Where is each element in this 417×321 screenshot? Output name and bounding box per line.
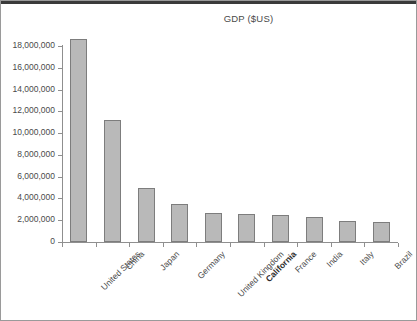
bar (205, 213, 222, 242)
y-axis-tick-mark (58, 46, 62, 47)
bar (306, 217, 323, 242)
bar (104, 120, 121, 242)
y-axis-tick-label: 14,000,000 (12, 84, 55, 94)
bar (171, 204, 188, 242)
bar (272, 215, 289, 242)
y-axis-line (62, 45, 63, 243)
top-divider-rule (1, 1, 417, 4)
x-axis-tick-mark (129, 243, 130, 247)
y-axis-tick-label: 8,000,000 (17, 149, 55, 159)
y-axis-tick-label: 10,000,000 (12, 127, 55, 137)
x-axis-tick-mark (331, 243, 332, 247)
y-axis-tick-label: 4,000,000 (17, 192, 55, 202)
y-axis-tick-label: 18,000,000 (12, 40, 55, 50)
x-axis-tick-mark (62, 243, 63, 247)
x-axis-tick-mark (163, 243, 164, 247)
x-axis-label: Germany (195, 249, 227, 281)
y-axis-tick-label: 12,000,000 (12, 105, 55, 115)
y-axis-tick-mark (58, 155, 62, 156)
bar (70, 39, 87, 242)
x-axis-label: India (324, 249, 344, 269)
plot-area: 18,000,00016,000,00014,000,00012,000,000… (62, 21, 398, 243)
x-axis-tick-mark (196, 243, 197, 247)
x-axis-label: Japan (158, 249, 181, 272)
y-axis-tick-mark (58, 90, 62, 91)
x-axis-tick-mark (364, 243, 365, 247)
x-axis-tick-mark (398, 243, 399, 247)
bar (238, 214, 255, 242)
y-axis-tick-label: 6,000,000 (17, 171, 55, 181)
bar (138, 188, 155, 242)
y-axis-tick-mark (58, 177, 62, 178)
y-axis-tick-label: 0 (50, 236, 55, 246)
bar (339, 221, 356, 242)
y-axis-tick-mark (58, 68, 62, 69)
y-axis-tick-label: 16,000,000 (12, 62, 55, 72)
x-axis-label: Brazil (392, 249, 414, 271)
x-axis-label: France (293, 249, 319, 275)
x-axis-tick-mark (230, 243, 231, 247)
x-axis-label: China (124, 249, 147, 272)
x-axis-label: Italy (357, 249, 375, 267)
y-axis-tick-mark (58, 220, 62, 221)
x-axis-tick-mark (96, 243, 97, 247)
y-axis-tick-mark (58, 111, 62, 112)
y-axis-tick-mark (58, 198, 62, 199)
y-axis-tick-mark (58, 133, 62, 134)
chart-page: GDP ($US) 18,000,00016,000,00014,000,000… (0, 0, 417, 321)
y-axis-tick-label: 2,000,000 (17, 214, 55, 224)
x-axis-tick-mark (297, 243, 298, 247)
bar (373, 222, 390, 242)
x-axis-tick-mark (264, 243, 265, 247)
